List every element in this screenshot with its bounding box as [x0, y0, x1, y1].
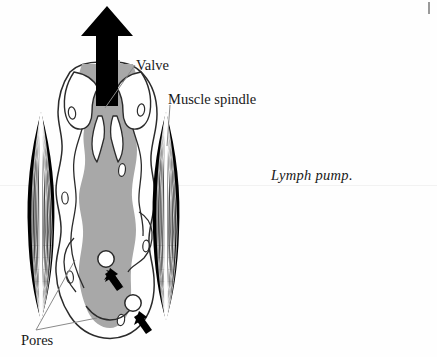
lymph-pump-diagram [0, 0, 437, 357]
pore-lower [125, 295, 141, 311]
muscle-spindle-left [28, 112, 55, 320]
label-valve: Valve [136, 58, 169, 73]
figure-page: Valve Muscle spindle Pores Lymph pump. [0, 0, 437, 357]
pore-upper [98, 251, 114, 267]
figure-caption: Lymph pump. [271, 168, 353, 183]
muscle-spindle-right [153, 112, 180, 320]
label-muscle-spindle: Muscle spindle [168, 92, 256, 107]
page-edge-tick-mark [428, 2, 430, 14]
label-pores: Pores [21, 333, 53, 348]
